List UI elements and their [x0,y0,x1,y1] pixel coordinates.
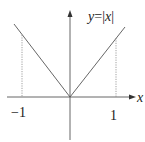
x-axis-label: x [136,90,144,105]
abs-value-graph: y=|x| x −1 1 [0,0,145,142]
x-axis-arrow-icon [129,95,136,100]
abs-value-curve [14,24,125,97]
y-axis-arrow-icon [68,10,73,17]
tick-label-one: 1 [110,108,117,123]
function-label: y=|x| [86,9,114,24]
tick-label-neg-one: −1 [11,105,26,120]
